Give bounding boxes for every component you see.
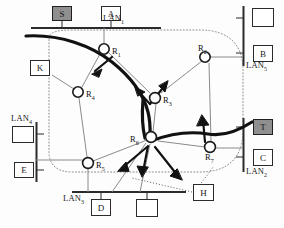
arrow-r7-up-head <box>197 115 209 126</box>
lan-label-lan2-sub: 2 <box>264 172 267 178</box>
lan-label-lan5: LAN5 <box>246 60 267 72</box>
host-box-lan3-right[interactable] <box>136 199 158 217</box>
router-label-r2: R2 <box>198 43 207 55</box>
router-node-r3 <box>150 93 161 104</box>
lan-label-lan3-text: LAN <box>63 193 81 203</box>
router-node-r1 <box>99 44 109 54</box>
bold-path-source-branch <box>26 36 150 140</box>
lan-label-lan1-text: LAN <box>103 13 121 23</box>
host-box-c[interactable]: C <box>253 149 273 166</box>
router-label-r3: R3 <box>163 95 172 107</box>
host-label-b: B <box>260 49 266 59</box>
host-label-k: K <box>37 63 44 73</box>
router-label-r6-sub: 6 <box>136 140 139 146</box>
router-label-r1: R1 <box>112 46 121 58</box>
network-diagram-canvas: S A K E D B T C H LAN1 LAN5 LAN2 <box>0 0 284 228</box>
lan-label-lan2: LAN2 <box>246 166 267 178</box>
lan-bus-lines <box>31 6 244 192</box>
link-r3-r6 <box>153 104 156 132</box>
host-label-c: C <box>260 153 266 163</box>
router-label-r7: R7 <box>205 152 214 164</box>
host-label-h: H <box>200 188 207 198</box>
lan-label-lan5-text: LAN <box>246 60 264 70</box>
router-node-r7 <box>205 142 216 153</box>
host-label-s: S <box>59 9 64 19</box>
router-node-r4 <box>73 87 83 97</box>
host-box-lan5-top[interactable] <box>252 8 274 27</box>
lan-label-lan3-sub: 3 <box>81 199 84 205</box>
lan-label-lan3: LAN3 <box>63 193 84 205</box>
lan-label-lan4-text: LAN <box>11 113 29 123</box>
router-label-r6: R6 <box>130 134 139 146</box>
host-box-k[interactable]: K <box>30 60 50 76</box>
link-r6-r7 <box>158 141 205 147</box>
lan-label-lan4-sub: 4 <box>29 119 32 125</box>
lan-label-lan1: LAN1 <box>103 13 124 25</box>
host-label-t: T <box>260 122 266 132</box>
diagram-vector-layer <box>0 0 284 228</box>
router-label-r2-sub: 2 <box>204 49 207 55</box>
router-label-r4-sub: 4 <box>92 95 95 101</box>
host-box-t[interactable]: T <box>253 119 273 135</box>
link-r2-r3 <box>161 61 202 93</box>
link-r4-k <box>52 75 74 89</box>
link-r2-r7 <box>209 63 211 141</box>
arrow-r3-upleft-head <box>135 87 145 96</box>
router-node-r6 <box>146 132 157 143</box>
host-label-e: E <box>21 165 27 175</box>
router-node-r5 <box>83 158 94 169</box>
host-box-s[interactable]: S <box>52 6 72 21</box>
host-box-h[interactable]: H <box>193 184 214 201</box>
lan-label-lan2-text: LAN <box>246 166 264 176</box>
link-r4-r5 <box>79 98 87 157</box>
router-label-r5-sub: 5 <box>102 166 105 172</box>
host-box-e[interactable]: E <box>14 162 34 178</box>
host-box-lan4-top[interactable] <box>12 126 34 143</box>
router-label-r7-sub: 7 <box>211 158 214 164</box>
arrow-r6-downright-head <box>170 169 182 180</box>
link-r6-r5 <box>93 140 147 161</box>
lan-label-lan4: LAN4 <box>11 113 32 125</box>
router-label-r5: R5 <box>96 160 105 172</box>
router-label-r1-sub: 1 <box>118 52 121 58</box>
host-box-d[interactable]: D <box>91 199 111 216</box>
router-label-r4: R4 <box>86 89 95 101</box>
host-label-d: D <box>98 203 105 213</box>
lan-label-lan5-sub: 5 <box>264 66 267 72</box>
link-r1-r3 <box>108 52 150 93</box>
bold-delivery-path <box>26 36 252 141</box>
lan-label-lan1-sub: 1 <box>121 19 124 25</box>
router-label-r3-sub: 3 <box>169 101 172 107</box>
